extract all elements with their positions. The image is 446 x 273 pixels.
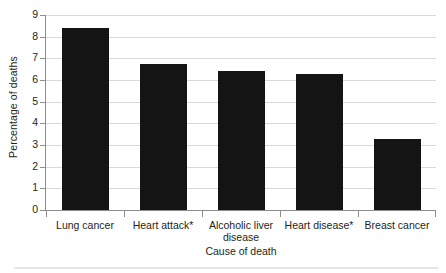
x-axis-tick [202,211,203,217]
x-axis-tick-label: Heart attack* [124,219,202,231]
y-axis-tick-label: 6 [14,74,38,85]
x-axis-tick-label: Lung cancer [46,219,124,231]
x-axis-tick [435,211,436,217]
y-axis-tick-label: 7 [14,52,38,63]
y-axis-tick [40,123,46,124]
y-axis-tick-label: 8 [14,31,38,42]
y-axis-tick [40,80,46,81]
y-axis-tick [40,58,46,59]
bar [374,139,421,211]
plot-area [46,15,436,210]
y-axis-tick-label: 9 [14,9,38,20]
gridline [46,210,436,211]
x-axis-tick-label: Alcoholic liver disease [202,219,280,243]
gridline [46,15,436,16]
y-axis-tick-label: 4 [14,117,38,128]
y-axis-tick-label: 3 [14,139,38,150]
x-axis-title: Cause of death [46,245,436,257]
bar [62,28,109,210]
y-axis-tick [40,167,46,168]
y-axis-tick-label: 1 [14,182,38,193]
y-axis-tick-label: 0 [14,204,38,215]
x-axis-tick [124,211,125,217]
y-axis-tick-label: 2 [14,161,38,172]
y-axis-tick-label: 5 [14,96,38,107]
bar [218,71,265,210]
y-axis-tick [40,188,46,189]
bar [140,64,187,210]
x-axis-tick [46,211,47,217]
x-axis-tick-label: Breast cancer [358,219,436,231]
bottom-divider [14,267,438,269]
bar-chart-figure: Percentage of deaths Cause of death 0123… [0,0,446,273]
y-axis-tick [40,102,46,103]
y-axis-tick [40,15,46,16]
bar [296,74,343,211]
y-axis-tick [40,145,46,146]
x-axis-tick-label: Heart disease* [280,219,358,231]
x-axis-tick [280,211,281,217]
x-axis-tick [358,211,359,217]
y-axis-tick [40,37,46,38]
